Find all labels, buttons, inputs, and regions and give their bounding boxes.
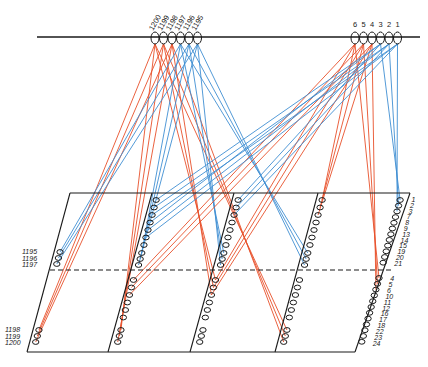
coil-icon (386, 238, 392, 243)
panel-left-label: 1200 (5, 339, 21, 346)
coil-icon (392, 215, 398, 220)
coil-icon (307, 243, 313, 248)
wire (119, 44, 163, 336)
panel-frame (27, 37, 420, 352)
coil-icon (286, 315, 292, 320)
wire (57, 44, 198, 264)
panel-left-label: 1197 (22, 261, 38, 268)
top-coil-label: 2 (387, 20, 391, 29)
top-coil-icon (394, 32, 402, 44)
top-coil-label: 6 (353, 20, 357, 29)
wire (372, 44, 376, 290)
wire (60, 44, 180, 252)
wire (152, 44, 397, 215)
coil-icon (359, 339, 365, 344)
top-coil-icon (168, 32, 176, 44)
coil-icon (202, 315, 208, 320)
top-coil-icon (151, 32, 159, 44)
coil-icon (315, 213, 321, 218)
coil-icon (223, 243, 229, 248)
coil-icon (288, 308, 294, 313)
top-coil-icon (177, 32, 185, 44)
wire (181, 44, 224, 253)
panel-right-label: 21 (393, 260, 402, 267)
panel-left-edge (27, 193, 70, 352)
coil-icon (381, 255, 387, 260)
coil-icon (389, 226, 395, 231)
top-coil-label: 3 (379, 20, 383, 29)
panel-right-label: 24 (372, 340, 381, 347)
top-coil-label: 5 (362, 20, 366, 29)
top-coil-label: 1 (396, 20, 400, 29)
coil-icon (290, 300, 296, 305)
wire (156, 44, 380, 200)
top-coil-icon (185, 32, 193, 44)
diagram-canvas: 1200119911981197119611956543211195119611… (0, 0, 428, 367)
coil-icon (388, 232, 394, 237)
top-coil-label: 4 (370, 20, 374, 29)
coil-icon (229, 220, 235, 225)
coil-icon (198, 334, 204, 339)
coil-icon (296, 278, 302, 283)
coil-icon (120, 315, 126, 320)
coil-icon (204, 308, 210, 313)
coil-icon (200, 328, 206, 333)
coil-icon (391, 220, 397, 225)
top-coil-icon (385, 32, 393, 44)
wire (172, 44, 211, 295)
coil-icon (311, 228, 317, 233)
wiring-diagram: 1200119911981197119611956543211195119611… (0, 0, 428, 367)
coil-icon (225, 235, 231, 240)
coil-icon (227, 228, 233, 233)
wire (154, 44, 389, 208)
panel-divider-2 (190, 193, 234, 352)
coil-icon (294, 285, 300, 290)
top-coil-icon (351, 32, 359, 44)
coil-icon (383, 249, 389, 254)
top-coil-icon (194, 32, 202, 44)
top-coil-icon (160, 32, 168, 44)
coil-icon (385, 243, 391, 248)
coil-icon (365, 316, 371, 321)
wire (139, 44, 198, 265)
top-coil-icon (368, 32, 376, 44)
wire (148, 44, 389, 230)
coil-icon (197, 340, 203, 345)
top-coil-icon (377, 32, 385, 44)
coil-icon (292, 293, 298, 298)
coil-icon (309, 235, 315, 240)
wire (189, 44, 222, 259)
coil-icon (313, 220, 319, 225)
top-coil-icon (360, 32, 368, 44)
coil-icon (206, 300, 212, 305)
